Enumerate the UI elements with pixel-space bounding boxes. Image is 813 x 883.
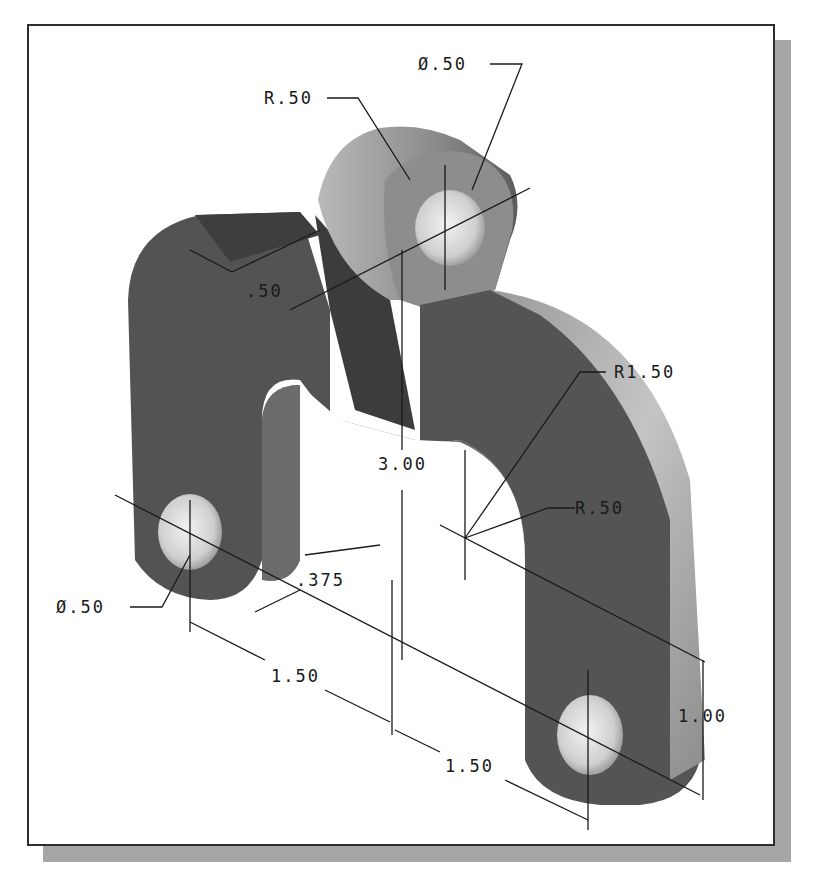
dim-left-hole-diameter: Ø.50 bbox=[56, 597, 105, 617]
dim-foot-height: 1.00 bbox=[678, 706, 727, 726]
dim-right-hole-spacing: 1.50 bbox=[445, 756, 494, 776]
right-hole bbox=[557, 695, 623, 775]
dim-left-hole-spacing: 1.50 bbox=[271, 666, 320, 686]
dim-slot-width: .375 bbox=[296, 570, 345, 590]
part-drawing: Ø.50 R.50 .50 R1.50 R.50 3.00 .375 Ø.50 … bbox=[0, 0, 813, 883]
dim-outer-arc-radius: R1.50 bbox=[614, 362, 675, 382]
dim-top-boss-radius: R.50 bbox=[264, 88, 313, 108]
dim-boss-thickness: .50 bbox=[246, 281, 283, 301]
dim-inner-arc-radius: R.50 bbox=[575, 498, 624, 518]
dim-top-hole-diameter: Ø.50 bbox=[418, 54, 467, 74]
dim-overall-height: 3.00 bbox=[378, 454, 427, 474]
